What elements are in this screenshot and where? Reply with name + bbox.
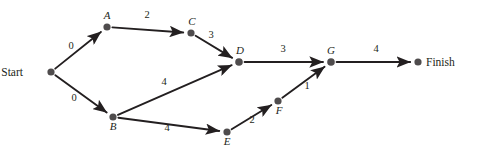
node-label-f: F bbox=[275, 104, 283, 116]
edge-weight-a-c: 2 bbox=[144, 9, 149, 20]
edge-weight-start-a: 0 bbox=[68, 40, 73, 51]
node-label-a: A bbox=[103, 9, 111, 21]
edge-b-to-d bbox=[118, 65, 232, 115]
node-c bbox=[187, 29, 194, 36]
node-label-g: G bbox=[327, 44, 335, 56]
node-g bbox=[327, 58, 335, 66]
activity-network-diagram: 0023442134 StartACBDEFGFinish bbox=[0, 0, 479, 158]
node-label-start: Start bbox=[1, 66, 24, 78]
edge-weight-d-g: 3 bbox=[280, 43, 285, 54]
graph-canvas: 0023442134 StartACBDEFGFinish bbox=[0, 0, 479, 158]
edge-weight-e-f: 2 bbox=[249, 114, 254, 125]
node-d bbox=[235, 58, 243, 66]
nodes-layer bbox=[47, 23, 421, 135]
edge-weight-f-g: 1 bbox=[304, 80, 309, 91]
node-label-b: B bbox=[110, 120, 117, 132]
edge-c-to-d bbox=[196, 36, 233, 58]
edge-weight-g-finish: 4 bbox=[373, 43, 379, 54]
edge-start-to-b bbox=[55, 75, 106, 112]
edge-weight-c-d: 3 bbox=[208, 29, 213, 40]
edge-weight-b-e: 4 bbox=[164, 122, 170, 133]
node-label-d: D bbox=[235, 44, 244, 56]
node-finish bbox=[414, 58, 421, 65]
node-a bbox=[103, 23, 110, 30]
edge-weight-b-d: 4 bbox=[161, 76, 167, 87]
node-labels-layer: StartACBDEFGFinish bbox=[1, 9, 455, 147]
node-label-finish: Finish bbox=[426, 56, 455, 68]
edges-layer bbox=[55, 27, 410, 131]
node-label-e: E bbox=[223, 135, 231, 147]
edge-a-to-c bbox=[112, 27, 183, 32]
edge-weight-start-b: 0 bbox=[71, 92, 76, 103]
node-start bbox=[47, 68, 54, 75]
edge-start-to-a bbox=[55, 32, 101, 69]
node-label-c: C bbox=[188, 15, 196, 27]
